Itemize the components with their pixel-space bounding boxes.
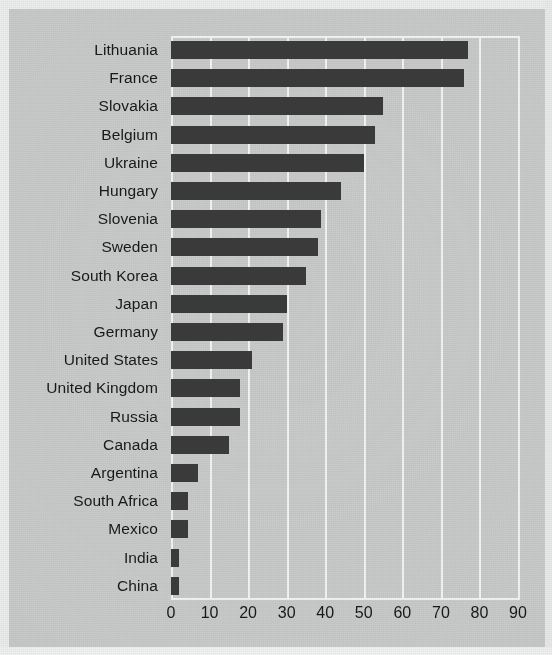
y-axis-label-south-africa: South Africa [73, 487, 158, 515]
bar-russia [171, 408, 240, 426]
x-axis-tick-90: 90 [509, 604, 527, 622]
y-axis-category-labels: LithuaniaFranceSlovakiaBelgiumUkraineHun… [0, 36, 166, 600]
x-axis-tick-70: 70 [432, 604, 450, 622]
bar-hungary [171, 182, 341, 200]
bar-row [171, 459, 518, 487]
bar-india [171, 549, 179, 567]
gridline-90 [518, 36, 520, 600]
page-margin-right [545, 0, 552, 655]
bar-row [171, 290, 518, 318]
y-axis-label-ukraine: Ukraine [104, 149, 158, 177]
y-axis-label-argentina: Argentina [91, 459, 158, 487]
bar-row [171, 36, 518, 64]
bar-china [171, 577, 179, 595]
y-axis-label-belgium: Belgium [101, 121, 158, 149]
bar-lithuania [171, 41, 468, 59]
bar-row [171, 177, 518, 205]
bar-slovenia [171, 210, 321, 228]
bar-sweden [171, 238, 318, 256]
bar-row [171, 544, 518, 572]
bar-row [171, 374, 518, 402]
x-axis-tick-labels: 0102030405060708090 [171, 604, 518, 632]
y-axis-label-slovakia: Slovakia [99, 92, 158, 120]
bar-france [171, 69, 464, 87]
x-axis-tick-10: 10 [201, 604, 219, 622]
figure-canvas: LithuaniaFranceSlovakiaBelgiumUkraineHun… [0, 0, 552, 655]
bar-south-africa [171, 492, 188, 510]
y-axis-label-china: China [117, 572, 158, 600]
y-axis-label-canada: Canada [103, 431, 158, 459]
x-axis-tick-30: 30 [278, 604, 296, 622]
bar-row [171, 205, 518, 233]
bar-row [171, 346, 518, 374]
bar-canada [171, 436, 229, 454]
bar-row [171, 515, 518, 543]
bar-row [171, 149, 518, 177]
page-margin-bottom [0, 647, 552, 655]
y-axis-label-russia: Russia [110, 403, 158, 431]
bar-japan [171, 295, 287, 313]
y-axis-label-hungary: Hungary [99, 177, 158, 205]
x-axis-line [171, 598, 518, 600]
bar-argentina [171, 464, 198, 482]
bar-row [171, 121, 518, 149]
bar-row [171, 403, 518, 431]
y-axis-label-sweden: Sweden [101, 233, 158, 261]
plot-area [171, 36, 518, 600]
bar-row [171, 572, 518, 600]
bar-row [171, 233, 518, 261]
bar-row [171, 487, 518, 515]
y-axis-label-mexico: Mexico [108, 515, 158, 543]
y-axis-label-united-states: United States [64, 346, 158, 374]
bar-belgium [171, 126, 375, 144]
bar-slovakia [171, 97, 383, 115]
bar-germany [171, 323, 283, 341]
x-axis-tick-80: 80 [471, 604, 489, 622]
y-axis-label-india: India [124, 544, 158, 572]
x-axis-tick-50: 50 [355, 604, 373, 622]
x-axis-tick-0: 0 [167, 604, 176, 622]
bar-ukraine [171, 154, 364, 172]
y-axis-label-germany: Germany [94, 318, 158, 346]
bar-row [171, 92, 518, 120]
bar-united-kingdom [171, 379, 240, 397]
bar-united-states [171, 351, 252, 369]
x-axis-tick-40: 40 [316, 604, 334, 622]
y-axis-label-slovenia: Slovenia [98, 205, 158, 233]
bar-row [171, 318, 518, 346]
bar-south-korea [171, 267, 306, 285]
y-axis-label-japan: Japan [115, 290, 158, 318]
x-axis-tick-20: 20 [239, 604, 257, 622]
bar-row [171, 262, 518, 290]
y-axis-label-france: France [109, 64, 158, 92]
bar-row [171, 64, 518, 92]
bar-row [171, 431, 518, 459]
y-axis-label-south-korea: South Korea [71, 262, 158, 290]
y-axis-label-lithuania: Lithuania [94, 36, 158, 64]
bar-mexico [171, 520, 188, 538]
y-axis-label-united-kingdom: United Kingdom [46, 374, 158, 402]
page-margin-top [0, 0, 552, 9]
x-axis-tick-60: 60 [393, 604, 411, 622]
